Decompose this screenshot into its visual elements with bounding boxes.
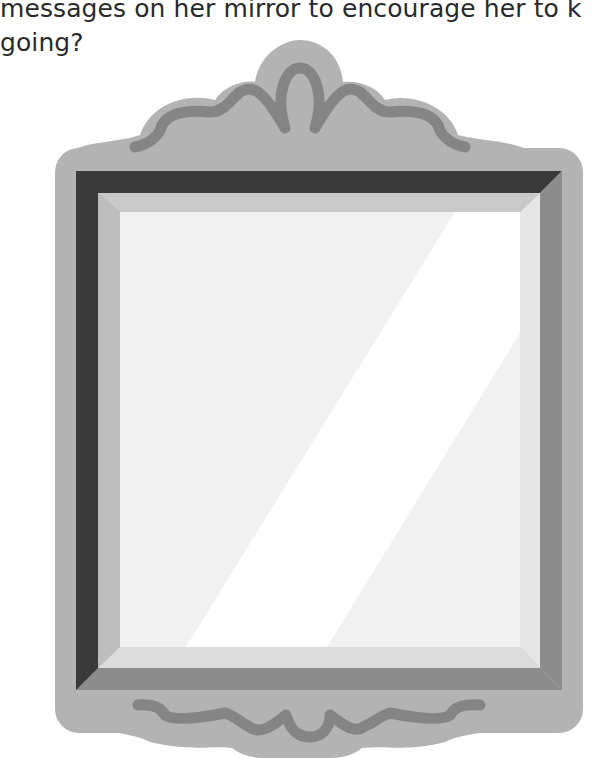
bevel-right (520, 193, 540, 668)
bevel-bottom (98, 647, 540, 668)
frame-bottom-edge (76, 668, 562, 690)
bevel-left (98, 193, 120, 668)
mirror-illustration (0, 0, 593, 758)
frame-right-edge (540, 171, 562, 690)
bevel-top (98, 193, 540, 212)
